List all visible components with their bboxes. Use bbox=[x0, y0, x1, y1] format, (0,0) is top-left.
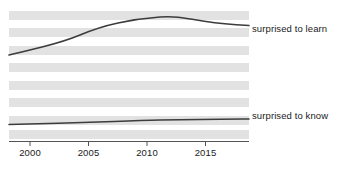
x-tick-label-2015: 2015 bbox=[195, 147, 217, 158]
x-tick-label-2010: 2010 bbox=[136, 147, 158, 158]
x-tick-label-2005: 2005 bbox=[78, 147, 100, 158]
series-label-surprised-to-know: surprised to know bbox=[252, 110, 328, 121]
x-tick-label-2000: 2000 bbox=[19, 147, 41, 158]
chart-container: 2000 2005 2010 2015 surprised to learn s… bbox=[0, 0, 348, 170]
series-label-surprised-to-learn: surprised to learn bbox=[252, 23, 327, 34]
